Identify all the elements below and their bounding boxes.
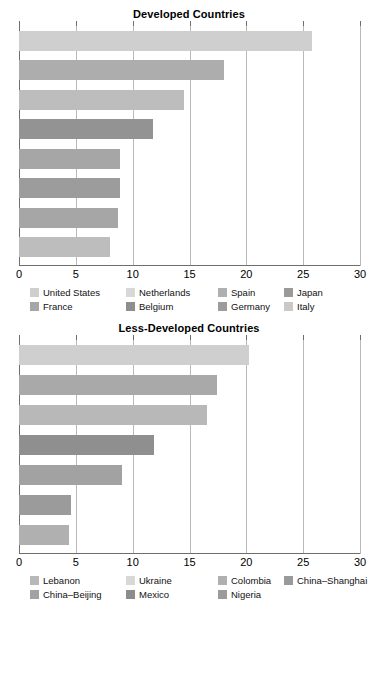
legend-swatch-icon bbox=[218, 288, 227, 297]
legend-label: Lebanon bbox=[43, 575, 80, 586]
legend-swatch-icon bbox=[126, 288, 135, 297]
legend-label: Nigeria bbox=[231, 589, 261, 600]
gridline-30 bbox=[360, 26, 361, 266]
legend-swatch-icon bbox=[126, 576, 135, 585]
bar-row bbox=[19, 56, 360, 86]
bar-colombia[interactable] bbox=[19, 405, 207, 425]
bar-row bbox=[19, 520, 360, 550]
bar-series bbox=[19, 26, 360, 262]
legend-swatch-icon bbox=[284, 576, 293, 585]
legend-item-netherlands[interactable]: Netherlands bbox=[126, 287, 218, 298]
chart-title: Less-Developed Countries bbox=[0, 314, 378, 340]
legend-item-france[interactable]: France bbox=[30, 301, 126, 312]
legend-item-ukraine[interactable]: Ukraine bbox=[126, 575, 218, 586]
legend-label: Germany bbox=[231, 301, 270, 312]
legend-row: LebanonUkraineColombiaChina–Shanghai bbox=[30, 574, 372, 587]
legend-swatch-icon bbox=[30, 590, 39, 599]
x-tick-label-20: 20 bbox=[240, 268, 252, 280]
x-tick-label-5: 5 bbox=[73, 268, 79, 280]
legend-swatch-icon bbox=[218, 302, 227, 311]
x-tick-label-15: 15 bbox=[183, 556, 195, 568]
bar-belgium[interactable] bbox=[19, 178, 120, 198]
legend: United StatesNetherlandsSpainJapanFrance… bbox=[0, 286, 378, 313]
x-tick-label-10: 10 bbox=[127, 268, 139, 280]
legend-item-italy[interactable]: Italy bbox=[284, 301, 364, 312]
bar-united-states[interactable] bbox=[19, 31, 312, 51]
x-tick-label-30: 30 bbox=[354, 556, 366, 568]
legend-label: Ukraine bbox=[139, 575, 172, 586]
x-tick-label-10: 10 bbox=[127, 556, 139, 568]
legend-item-spain[interactable]: Spain bbox=[218, 287, 284, 298]
bar-netherlands[interactable] bbox=[19, 60, 224, 80]
bar-row bbox=[19, 85, 360, 115]
legend-row: FranceBelgiumGermanyItaly bbox=[30, 300, 372, 313]
legend-label: China–Beijing bbox=[43, 589, 102, 600]
plot-area bbox=[19, 26, 360, 266]
legend-swatch-icon bbox=[218, 590, 227, 599]
bar-row bbox=[19, 490, 360, 520]
bar-china-shanghai[interactable] bbox=[19, 435, 154, 455]
legend-item-united-states[interactable]: United States bbox=[30, 287, 126, 298]
x-tick-label-25: 25 bbox=[297, 556, 309, 568]
legend-item-colombia[interactable]: Colombia bbox=[218, 575, 284, 586]
bar-row bbox=[19, 340, 360, 370]
legend-swatch-icon bbox=[284, 288, 293, 297]
x-tick-label-5: 5 bbox=[73, 556, 79, 568]
legend-swatch-icon bbox=[30, 576, 39, 585]
legend-label: China–Shanghai bbox=[297, 575, 367, 586]
bar-lebanon[interactable] bbox=[19, 345, 249, 365]
x-tick-label-15: 15 bbox=[183, 268, 195, 280]
legend-label: Italy bbox=[297, 301, 314, 312]
legend: LebanonUkraineColombiaChina–ShanghaiChin… bbox=[0, 574, 378, 601]
bar-row bbox=[19, 370, 360, 400]
bar-ukraine[interactable] bbox=[19, 375, 217, 395]
gridline-30 bbox=[360, 340, 361, 554]
bar-series bbox=[19, 340, 360, 550]
legend-item-lebanon[interactable]: Lebanon bbox=[30, 575, 126, 586]
bar-row bbox=[19, 400, 360, 430]
legend-swatch-icon bbox=[30, 302, 39, 311]
legend-label: Colombia bbox=[231, 575, 271, 586]
legend-row: China–BeijingMexicoNigeria bbox=[30, 588, 372, 601]
legend-item-mexico[interactable]: Mexico bbox=[126, 589, 218, 600]
bar-japan[interactable] bbox=[19, 119, 153, 139]
legend-swatch-icon bbox=[126, 590, 135, 599]
charts-container: Developed Countries051015202530United St… bbox=[0, 0, 378, 601]
legend-row: United StatesNetherlandsSpainJapan bbox=[30, 286, 372, 299]
legend-label: Netherlands bbox=[139, 287, 190, 298]
bar-row bbox=[19, 144, 360, 174]
bar-france[interactable] bbox=[19, 149, 120, 169]
bar-spain[interactable] bbox=[19, 90, 184, 110]
legend-swatch-icon bbox=[30, 288, 39, 297]
bar-italy[interactable] bbox=[19, 237, 110, 257]
legend-label: Mexico bbox=[139, 589, 169, 600]
legend-label: United States bbox=[43, 287, 100, 298]
plot-area bbox=[19, 340, 360, 554]
bar-row bbox=[19, 203, 360, 233]
legend-label: Japan bbox=[297, 287, 323, 298]
legend-item-belgium[interactable]: Belgium bbox=[126, 301, 218, 312]
chart-less-developed: Less-Developed Countries051015202530Leba… bbox=[0, 314, 378, 601]
legend-item-china-beijing[interactable]: China–Beijing bbox=[30, 589, 126, 600]
bar-row bbox=[19, 26, 360, 56]
bar-mexico[interactable] bbox=[19, 495, 71, 515]
bar-china-beijing[interactable] bbox=[19, 465, 122, 485]
bar-nigeria[interactable] bbox=[19, 525, 69, 545]
x-axis-labels: 051015202530 bbox=[19, 266, 360, 282]
bar-germany[interactable] bbox=[19, 208, 118, 228]
x-tick-label-25: 25 bbox=[297, 268, 309, 280]
chart-page: Developed Countries051015202530United St… bbox=[0, 0, 378, 679]
x-tick-label-20: 20 bbox=[240, 556, 252, 568]
legend-item-nigeria[interactable]: Nigeria bbox=[218, 589, 284, 600]
bar-row bbox=[19, 460, 360, 490]
chart-developed: Developed Countries051015202530United St… bbox=[0, 0, 378, 313]
legend-item-germany[interactable]: Germany bbox=[218, 301, 284, 312]
legend-item-japan[interactable]: Japan bbox=[284, 287, 364, 298]
bar-row bbox=[19, 233, 360, 263]
legend-swatch-icon bbox=[218, 576, 227, 585]
x-axis-labels: 051015202530 bbox=[19, 554, 360, 570]
x-tick-label-0: 0 bbox=[16, 268, 22, 280]
legend-item-china-shanghai[interactable]: China–Shanghai bbox=[284, 575, 364, 586]
legend-label: France bbox=[43, 301, 73, 312]
legend-label: Belgium bbox=[139, 301, 173, 312]
